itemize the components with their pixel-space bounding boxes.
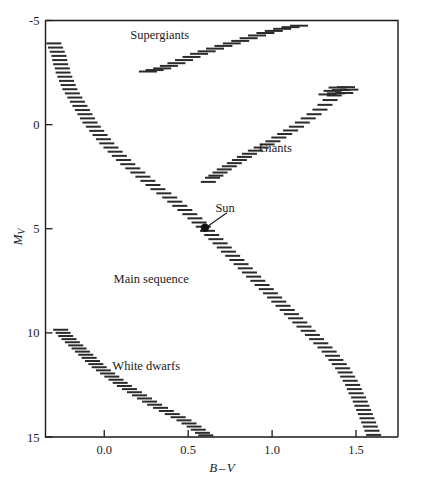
star-series [319,87,359,94]
sun-marker [201,224,209,232]
star-series [201,95,342,181]
y-tick-label: 15 [27,431,40,445]
y-tick-label: 5 [33,222,39,236]
y-axis-tick-labels: -5051015 [27,14,40,445]
x-axis-ticks [104,430,356,437]
y-axis-ticks [46,21,53,438]
star-series [53,330,213,436]
y-tick-label: 0 [33,118,39,132]
x-tick-label: 0.5 [180,443,196,457]
star-series [46,43,381,435]
plot-frame [46,21,399,438]
y-axis-title-text: MV [10,227,27,246]
x-tick-label: 1.5 [348,443,364,457]
region-label-white-dwarfs: White dwarfs [112,359,180,373]
y-tick-label: 10 [27,326,40,340]
y-axis-title: MV [10,227,27,246]
region-label-sun: Sun [215,201,235,215]
x-tick-label: 0.0 [96,443,112,457]
x-axis-tick-labels: 0.00.51.01.5 [96,443,363,457]
hr-diagram-plot: -5051015 0.00.51.01.5 MV B–V Supergiants… [0,0,422,483]
y-tick-label: -5 [29,14,39,28]
region-label-main-sequence: Main sequence [114,272,190,286]
x-tick-label: 1.0 [264,443,280,457]
hr-diagram-figure: -5051015 0.00.51.01.5 MV B–V Supergiants… [0,0,422,483]
region-label-supergiants: Supergiants [130,28,189,42]
axis-frame [46,21,399,438]
x-axis-title: B–V [209,460,236,475]
region-annotations: SupergiantsGiantsMain sequenceWhite dwar… [112,28,292,373]
star-data-layer [46,26,381,436]
x-axis-title-text: B–V [209,460,236,475]
region-label-giants: Giants [259,141,292,155]
